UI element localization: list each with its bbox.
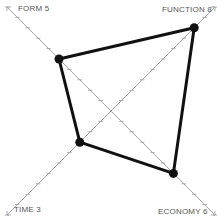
axis-label-time: TIME 3 — [14, 205, 41, 214]
value-polygon — [59, 28, 194, 174]
data-point-economy — [169, 169, 178, 178]
radar-plot — [0, 0, 224, 221]
axis-label-form: FORM 5 — [18, 4, 49, 13]
axis-label-economy: ECONOMY 6 — [158, 207, 208, 216]
data-point-function — [190, 23, 199, 32]
radar-chart: FORM 5 FUNCTION 8 ECONOMY 6 TIME 3 — [0, 0, 224, 221]
axis-label-function: FUNCTION 8 — [162, 5, 212, 14]
data-point-time — [75, 138, 84, 147]
data-point-form — [55, 55, 64, 64]
